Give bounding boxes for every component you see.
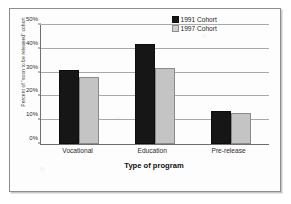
x-axis-tick-label: Education	[137, 147, 166, 154]
legend-item[interactable]: 1997 Cohort	[172, 25, 217, 32]
bar[interactable]	[155, 68, 175, 144]
bar-group	[59, 25, 99, 144]
bar[interactable]	[135, 44, 155, 144]
bars-layer	[41, 25, 269, 144]
y-axis-tick-label: 30%	[26, 64, 38, 70]
legend-item[interactable]: 1991 Cohort	[172, 16, 217, 23]
figure-frame: Percent of "soon to be released" cohort …	[9, 8, 281, 192]
bar[interactable]	[211, 111, 231, 144]
y-axis-tick-label: 20%	[26, 87, 38, 93]
y-axis-tick-label: 50%	[26, 16, 38, 22]
legend-swatch-icon	[172, 25, 179, 32]
bar-group	[211, 25, 251, 144]
x-axis-tick-labels: VocationalEducationPre-release	[40, 147, 268, 154]
x-axis-title: Type of program	[40, 161, 268, 170]
y-axis-tick-label: 0%	[29, 135, 38, 141]
x-axis-tick-label: Vocational	[62, 147, 92, 154]
bar[interactable]	[59, 70, 79, 144]
legend-label: 1997 Cohort	[181, 25, 217, 32]
bar[interactable]	[79, 77, 99, 144]
y-axis-tick-label: 10%	[26, 111, 38, 117]
bar[interactable]	[231, 113, 251, 144]
bar-group	[135, 25, 175, 144]
chart-legend: 1991 Cohort1997 Cohort	[170, 14, 220, 35]
plot-area: 0%10%20%30%40%50%	[40, 25, 269, 145]
legend-label: 1991 Cohort	[181, 16, 217, 23]
x-axis-tick-label: Pre-release	[212, 147, 246, 154]
y-axis-tick-label: 40%	[26, 40, 38, 46]
legend-swatch-icon	[172, 16, 179, 23]
bar-chart: Percent of "soon to be released" cohort …	[10, 9, 280, 191]
